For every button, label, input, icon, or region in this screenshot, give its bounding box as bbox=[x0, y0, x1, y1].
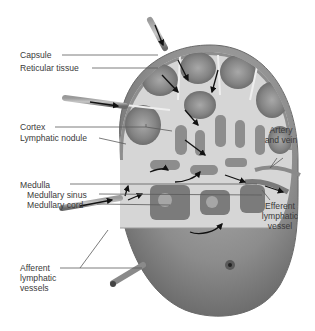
lymph-node-diagram: Capsule Reticular tissue Cortex Lymphati… bbox=[0, 0, 315, 331]
label-cortex: Cortex bbox=[20, 122, 45, 132]
label-reticular-tissue: Reticular tissue bbox=[20, 63, 79, 73]
label-medullary-sinus: Medullary sinus bbox=[27, 190, 87, 200]
label-artery-and-vein: Artery and vein bbox=[256, 125, 306, 145]
label-efferent-lymphatic-vessel: Efferent lymphatic vessel bbox=[255, 201, 305, 231]
label-lymphatic-nodule: Lymphatic nodule bbox=[20, 133, 87, 143]
label-capsule: Capsule bbox=[20, 50, 52, 60]
label-afferent-lymphatic-vessels: Afferent lymphatic vessels bbox=[20, 263, 56, 293]
label-medulla: Medulla bbox=[20, 180, 50, 190]
label-medullary-cord: Medullary cord bbox=[27, 200, 83, 210]
